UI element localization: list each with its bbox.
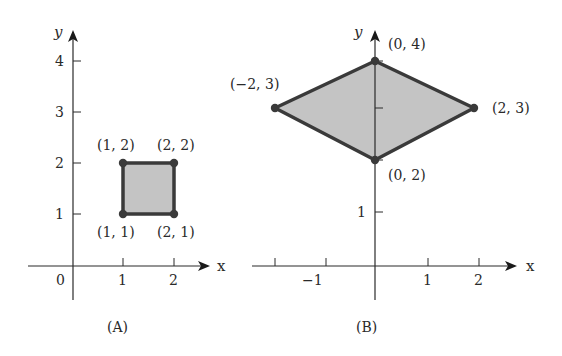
panel-a-x-tick-label-1: 1 [118, 272, 127, 288]
panel-b-x-tick-label-1: 1 [423, 272, 432, 288]
panel-b-vertex-label-2-3: (2, 3) [492, 100, 530, 116]
panel-b-vertex-label-0-2: (0, 2) [388, 167, 426, 183]
panel-b-caption: (B) [356, 319, 377, 335]
panel-a-origin-label: 0 [56, 272, 65, 288]
panel-a-vertex-label-1-1: (1, 1) [97, 224, 135, 240]
panel-b-x-tick-label-2: 2 [474, 272, 483, 288]
panel-b-x-label: x [526, 257, 535, 275]
vertex-point [119, 210, 127, 218]
panel-b-y-label: y [353, 23, 363, 41]
panel-a-vertex-label-2-1: (2, 1) [157, 224, 195, 240]
panel-a-y-tick-label-4: 4 [55, 53, 64, 69]
panel-b-vertex-label-0-4: (0, 4) [388, 36, 426, 52]
panel-b: y x 1 −1 1 2 (0, 4) (−2, 3) (2, 3) (0, 2… [230, 23, 535, 335]
panel-a-y-tick-label-2: 2 [55, 155, 64, 171]
panel-a-square [123, 163, 174, 214]
panel-a-x-tick-label-2: 2 [169, 272, 178, 288]
panel-a-vertex-label-1-2: (1, 2) [97, 137, 135, 153]
panel-b-x-tick-label--1: −1 [302, 272, 323, 288]
vertex-point [470, 104, 478, 112]
panel-a-vertex-label-2-2: (2, 2) [157, 137, 195, 153]
vertex-point [119, 159, 127, 167]
vertex-point [170, 159, 178, 167]
figure: y x 4 3 2 1 0 1 2 (1, 2) (2, 2) (1, 1) (… [0, 0, 562, 356]
panel-a-caption: (A) [107, 319, 128, 335]
panel-a: y x 4 3 2 1 0 1 2 (1, 2) (2, 2) (1, 1) (… [28, 23, 226, 335]
panel-a-y-label: y [53, 23, 63, 41]
panel-a-y-tick-label-3: 3 [55, 104, 64, 120]
panel-b-vertex-label-neg2-3: (−2, 3) [230, 76, 279, 92]
vertex-point [271, 104, 279, 112]
vertex-point [170, 210, 178, 218]
vertex-point [371, 57, 379, 65]
panel-a-x-label: x [217, 257, 226, 275]
panel-a-y-tick-label-1: 1 [55, 206, 64, 222]
vertex-point [371, 156, 379, 164]
panel-b-y-tick-label-1: 1 [357, 204, 366, 220]
